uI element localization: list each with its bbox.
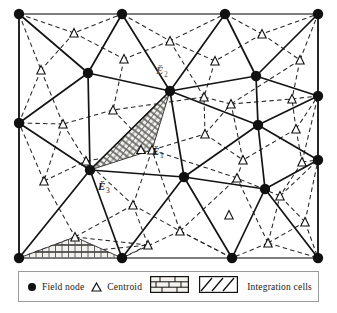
centroid-marker [120, 55, 128, 64]
annotation-sub-E1: 1 [160, 151, 164, 160]
field-node [313, 155, 323, 165]
legend-label-centroid: Centroid [107, 282, 142, 292]
centroid-marker [129, 201, 137, 210]
centroid-marker [70, 29, 78, 38]
centroid-marker [71, 233, 79, 242]
field-node [165, 86, 175, 96]
centroid-marker [233, 174, 241, 183]
field-node [220, 9, 230, 19]
annotation-label-E2: Ě [155, 64, 163, 76]
triangulation-edges [19, 14, 318, 258]
brick-pattern-swatch [150, 276, 189, 297]
centroid-marker [40, 177, 48, 186]
annotation-sub-E2: 2 [164, 70, 168, 79]
field-node [251, 71, 261, 81]
integration-cell-edges [19, 14, 318, 258]
filled-circle-icon [28, 283, 36, 291]
annotation-label-E3: Ě [97, 180, 105, 192]
field-node [253, 120, 263, 130]
centroid-marker [37, 66, 45, 75]
field-node [313, 253, 323, 263]
centroid-marker [211, 57, 219, 66]
legend-label-field-node: Field node [42, 282, 84, 292]
field-node [83, 68, 93, 78]
field-node [179, 172, 189, 182]
hatch-pattern-swatch [199, 276, 238, 297]
centroid-marker [264, 239, 272, 248]
centroid-marker [225, 211, 233, 220]
legend-item-field-node: Field node [28, 282, 84, 292]
field-node [14, 9, 24, 19]
legend-item-centroid: Centroid [91, 278, 142, 296]
mesh-figure: Ě 1 Ě 2 Ě 3 Field node Centroid [0, 0, 337, 313]
field-node [14, 253, 24, 263]
field-node [227, 253, 237, 263]
field-node [85, 165, 95, 175]
centroid-marker [296, 56, 304, 65]
centroid-marker [239, 156, 247, 165]
field-node [14, 118, 24, 128]
legend-item-integration-cells: Integration cells [247, 282, 312, 292]
field-node [117, 253, 127, 263]
centroid-marker [258, 30, 266, 39]
domain-boundary [19, 14, 318, 258]
mesh-diagram-svg: Ě 1 Ě 2 Ě 3 [0, 0, 337, 313]
centroid-marker [200, 93, 208, 102]
centroid-marker [166, 37, 174, 46]
centroid-marker [292, 125, 300, 134]
field-node [313, 9, 323, 19]
field-node [117, 9, 127, 19]
annotation-label-E1: Ě [151, 145, 159, 157]
field-node [260, 184, 270, 194]
field-node [313, 91, 323, 101]
legend-label-integration-cells: Integration cells [247, 282, 312, 292]
legend: Field node Centroid [18, 271, 319, 302]
open-triangle-icon [91, 278, 102, 296]
centroid-markers [37, 29, 309, 250]
frame-overlay-edges [19, 14, 318, 258]
annotation-sub-E3: 3 [106, 186, 110, 195]
